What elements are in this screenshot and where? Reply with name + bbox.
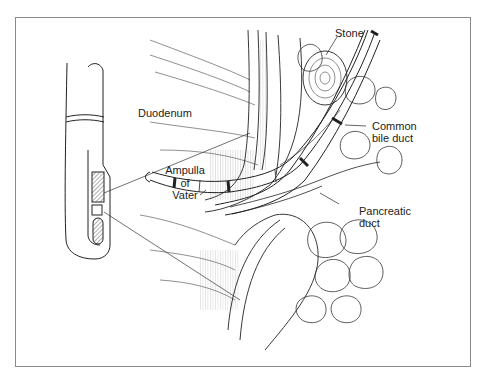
label-common-bile-duct-2: bile duct bbox=[372, 132, 413, 144]
label-ampulla-3: Vater bbox=[160, 189, 210, 201]
label-ampulla-1: Ampulla bbox=[160, 164, 210, 176]
label-ampulla-2: of bbox=[160, 177, 210, 189]
label-pancreatic-duct-2: duct bbox=[359, 217, 380, 229]
stone bbox=[303, 51, 347, 105]
label-pancreatic-duct-1: Pancreatic bbox=[359, 205, 411, 217]
endoscope-tip bbox=[65, 63, 110, 259]
label-stone: Stone bbox=[335, 27, 364, 39]
anatomy-illustration bbox=[0, 0, 482, 378]
label-common-bile-duct-1: Common bbox=[372, 120, 417, 132]
label-duodenum: Duodenum bbox=[138, 107, 192, 119]
